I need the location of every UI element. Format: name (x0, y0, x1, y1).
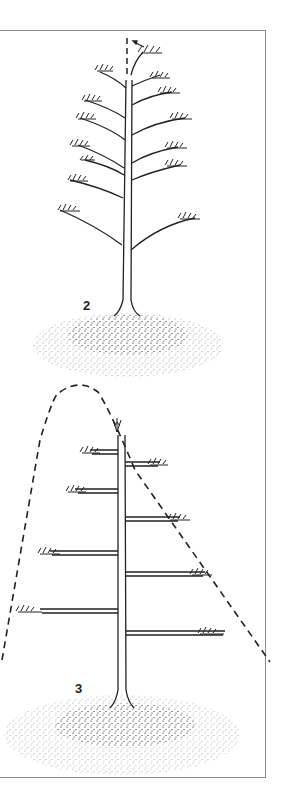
figure-2-foliage (58, 45, 200, 219)
arrow-icon (133, 41, 137, 44)
figure-3-foliage (16, 418, 224, 634)
figure-2-soil (33, 313, 223, 377)
figure-2-label: 2 (83, 298, 90, 313)
figure-3-soil (4, 695, 240, 775)
tree-illustration (0, 0, 288, 808)
figure-3-label: 3 (75, 681, 82, 696)
figure-3-silhouette (2, 385, 270, 662)
figure-3-tree (40, 435, 225, 708)
